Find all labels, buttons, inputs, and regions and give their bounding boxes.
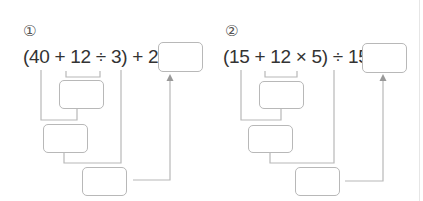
step-box-3[interactable] (295, 167, 340, 196)
arrow-up-icon (380, 74, 387, 81)
problem-2: ② (15 + 12 × 5) ÷ 15 = (0, 0, 211, 201)
page-divider (419, 0, 420, 201)
step-box-2[interactable] (248, 125, 293, 153)
flow-lines (0, 0, 423, 201)
step-box-1[interactable] (259, 81, 304, 109)
